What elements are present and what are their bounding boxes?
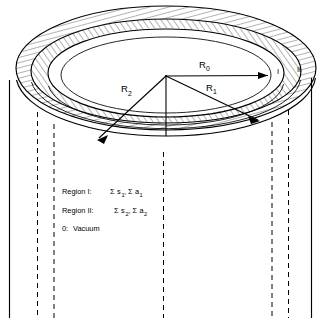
region-marker-ii: II: [297, 65, 301, 74]
legend-region-ii-a-sub: 2: [144, 211, 147, 217]
legend-region-i-s: s: [117, 187, 121, 196]
arrowhead-r0: [258, 72, 268, 79]
region-marker-i: I: [277, 67, 279, 76]
radius-label-r2-subscript: 2: [128, 90, 132, 97]
radius-label-r1-base: R: [206, 82, 213, 93]
radius-label-r0-base: R: [199, 59, 206, 70]
legend-vacuum-prefix: 0:: [62, 224, 68, 233]
legend-region-ii-prefix: Region II:: [62, 206, 94, 215]
legend-item-region-i: Region I: Σ s 1 , Σ a 1: [62, 187, 143, 198]
radius-label-r2-base: R: [121, 83, 128, 94]
legend-region-i-comma: ,: [124, 187, 126, 196]
radius-arrow-r0: [166, 76, 268, 77]
annular-cylinder-diagram: R 0 R 1 R 2 I II Region I: Σ s 1 , Σ a 1: [0, 0, 322, 323]
legend-region-i-prefix: Region I:: [62, 187, 92, 196]
legend-region-i-sigma-s: Σ: [110, 187, 115, 196]
legend-vacuum-value: Vacuum: [73, 224, 100, 233]
legend-group: Region I: Σ s 1 , Σ a 1 Region II: Σ s 2…: [62, 187, 147, 233]
legend-region-ii-comma: ,: [129, 206, 131, 215]
radius-label-r1-subscript: 1: [213, 88, 217, 95]
legend-region-ii-sigma-a: Σ: [133, 206, 138, 215]
diagram-figure: R 0 R 1 R 2 I II Region I: Σ s 1 , Σ a 1: [0, 0, 322, 323]
legend-region-ii-sigma-s: Σ: [114, 206, 119, 215]
legend-region-i-sigma-a: Σ: [128, 187, 133, 196]
legend-region-ii-s: s: [121, 206, 125, 215]
arrowhead-r2: [97, 135, 108, 144]
legend-item-vacuum: 0: Vacuum: [62, 224, 100, 233]
legend-item-region-ii: Region II: Σ s 2 , Σ a 2: [62, 206, 147, 217]
radius-label-r0-subscript: 0: [206, 65, 210, 72]
legend-region-i-a-sub: 1: [140, 192, 143, 198]
